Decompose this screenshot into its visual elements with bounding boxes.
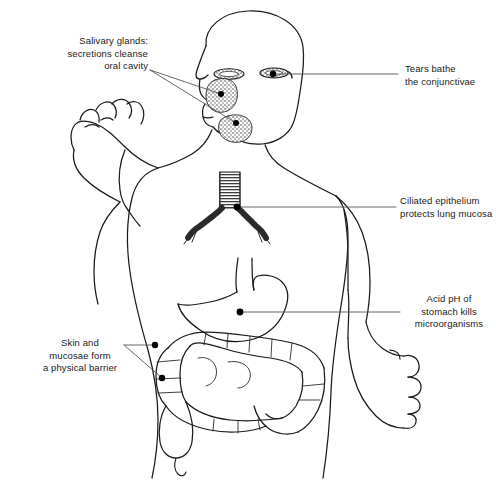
bronchi xyxy=(184,208,270,244)
raised-arm-fist xyxy=(71,99,158,304)
submandibular-gland xyxy=(219,115,252,143)
large-intestine-colon xyxy=(156,332,325,434)
marker-stomach xyxy=(237,309,244,316)
marker-trachea xyxy=(234,204,241,211)
annotation-label-stomach-acid: Acid pH of stomach kills microorganisms xyxy=(404,293,494,331)
annotation-label-ciliated-epithelium: Ciliated epithelium protects lung mucosa xyxy=(400,195,496,220)
marker-skin-upper xyxy=(152,342,158,348)
annotation-label-salivary-glands: Salivary glands: secretions cleanse oral… xyxy=(30,35,148,73)
marker-skin-lower xyxy=(159,375,165,381)
marker-eye xyxy=(270,71,276,77)
eye-left xyxy=(214,69,244,79)
immune-barriers-figure: Salivary glands: secretions cleanse oral… xyxy=(0,0,496,496)
marker-submandibular xyxy=(233,120,239,126)
trachea xyxy=(220,172,240,208)
cecum-appendix xyxy=(159,402,193,476)
esophagus xyxy=(236,258,254,292)
stomach xyxy=(178,275,288,341)
annotation-label-skin-barrier: Skin and mucosae form a physical barrier xyxy=(38,337,122,375)
marker-parotid xyxy=(218,91,224,97)
annotation-label-tears: Tears bathe the conjunctivae xyxy=(405,63,495,88)
